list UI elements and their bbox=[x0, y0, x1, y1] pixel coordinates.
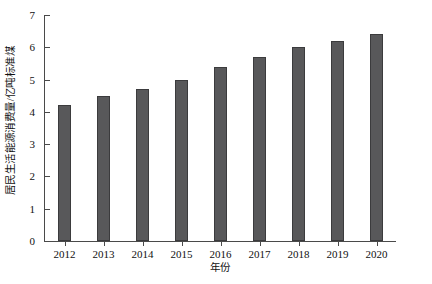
bar bbox=[136, 89, 149, 241]
y-tick-mark bbox=[45, 112, 50, 113]
y-tick-label: 1 bbox=[30, 203, 36, 215]
y-tick-mark bbox=[45, 80, 50, 81]
bar bbox=[58, 105, 71, 241]
bar bbox=[370, 34, 383, 241]
x-tick-mark bbox=[299, 241, 300, 246]
y-tick-mark bbox=[45, 47, 50, 48]
x-tick-mark bbox=[260, 241, 261, 246]
bar bbox=[253, 57, 266, 241]
y-tick-label: 0 bbox=[30, 235, 36, 247]
bars-layer bbox=[45, 15, 396, 241]
x-tick-mark bbox=[221, 241, 222, 246]
bar bbox=[292, 47, 305, 241]
x-tick-mark bbox=[338, 241, 339, 246]
x-tick-mark bbox=[182, 241, 183, 246]
y-tick-mark bbox=[45, 241, 50, 242]
y-tick-label: 6 bbox=[30, 41, 36, 53]
y-tick-mark bbox=[45, 209, 50, 210]
x-tick-mark bbox=[377, 241, 378, 246]
bar bbox=[214, 67, 227, 241]
y-tick-label: 7 bbox=[30, 9, 36, 21]
x-tick-mark bbox=[143, 241, 144, 246]
y-tick-mark bbox=[45, 176, 50, 177]
y-axis-title-text: 居民生活能源消费量/亿吨标准煤 bbox=[2, 46, 17, 195]
x-axis-title: 年份 bbox=[44, 259, 396, 274]
x-tick-mark bbox=[65, 241, 66, 246]
bar bbox=[331, 41, 344, 241]
bar bbox=[175, 80, 188, 241]
plot-area: 0123456720122013201420152016201720182019… bbox=[44, 15, 396, 242]
y-tick-label: 4 bbox=[30, 106, 36, 118]
y-tick-mark bbox=[45, 15, 50, 16]
y-tick-mark bbox=[45, 144, 50, 145]
y-tick-label: 2 bbox=[30, 170, 36, 182]
bar bbox=[97, 96, 110, 241]
y-tick-label: 5 bbox=[30, 74, 36, 86]
x-tick-mark bbox=[104, 241, 105, 246]
y-axis-title: 居民生活能源消费量/亿吨标准煤 bbox=[0, 0, 18, 240]
bar-chart: 居民生活能源消费量/亿吨标准煤 012345672012201320142015… bbox=[0, 0, 432, 284]
y-tick-label: 3 bbox=[30, 138, 36, 150]
